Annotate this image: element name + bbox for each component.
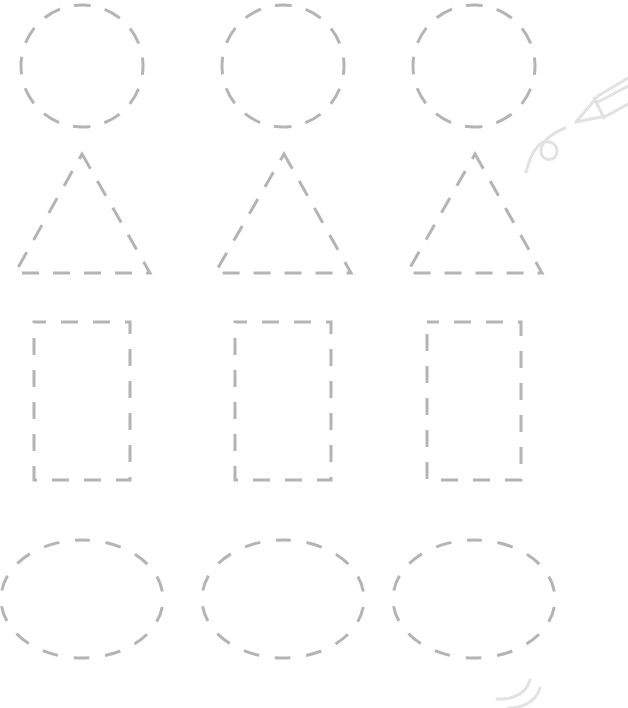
dashed-rectangle-3-1: [34, 322, 130, 480]
motion-curl-icon: [497, 680, 540, 708]
dashed-rectangle-3-3: [427, 322, 521, 480]
dashed-circle-1-3: [413, 5, 535, 127]
dashed-oval-4-1: [1, 540, 163, 658]
pencil-icon: [576, 78, 628, 122]
tracing-worksheet: [0, 0, 628, 708]
dashed-oval-4-3: [393, 540, 555, 658]
dashed-triangle-2-2: [215, 154, 351, 273]
pencil-scribble-icon: [526, 128, 565, 172]
dashed-circle-1-1: [21, 5, 143, 127]
traceable-shapes: [1, 5, 555, 658]
dashed-triangle-2-3: [407, 154, 542, 273]
dashed-rectangle-3-2: [235, 322, 331, 480]
dashed-triangle-2-1: [15, 154, 150, 273]
dashed-circle-1-2: [222, 5, 344, 127]
dashed-oval-4-2: [202, 540, 364, 658]
